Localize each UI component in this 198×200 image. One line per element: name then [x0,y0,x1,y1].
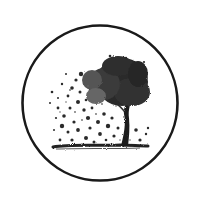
ground-line [53,145,148,147]
tree-emblem [0,0,198,200]
canopy [82,56,150,106]
